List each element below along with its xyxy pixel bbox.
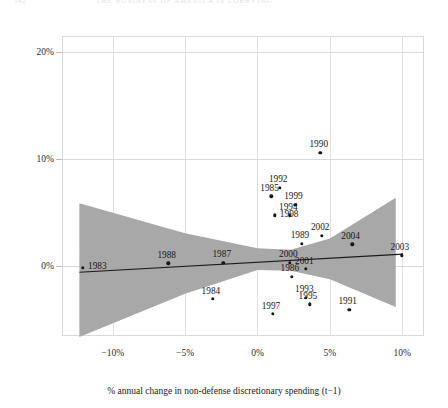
data-point-label: 1984 [202, 287, 221, 296]
running-head-title: THE BUSINESS OF AMERICA IS LOBBYING [96, 0, 273, 5]
data-point-label: 1985 [260, 184, 279, 193]
scatter-plot: 1983198419851986198719881989199019911992… [62, 36, 424, 336]
data-point-label: 2003 [391, 243, 410, 252]
fit-line-layer [62, 36, 424, 336]
y-tick-label: 10% [8, 154, 54, 164]
regression-line [79, 254, 403, 272]
x-tick-label: −10% [101, 348, 124, 358]
data-point-label: 1987 [212, 250, 231, 259]
data-point-label: 1999 [284, 192, 303, 201]
data-point-label: 1992 [269, 175, 288, 184]
y-tick-mark [56, 159, 62, 160]
x-tick-label: 5% [324, 348, 337, 358]
x-tick-label: −5% [176, 348, 194, 358]
y-tick-label: 0% [8, 261, 54, 271]
x-tick-label: 10% [394, 348, 411, 358]
figure-container: 142 THE BUSINESS OF AMERICA IS LOBBYING … [0, 0, 448, 408]
y-tick-mark [56, 52, 62, 53]
y-tick-mark [56, 266, 62, 267]
x-axis-title: % annual change in non-defense discretio… [0, 386, 448, 396]
data-point-label: 2001 [295, 257, 314, 266]
data-point-label: 2002 [311, 223, 330, 232]
y-tick-label: 20% [8, 47, 54, 57]
data-point-label: 2004 [341, 232, 360, 241]
data-point-label: 1988 [157, 251, 176, 260]
page-folio: 142 [14, 0, 26, 5]
data-point-label: 1991 [338, 297, 357, 306]
x-tick-label: 0% [251, 348, 264, 358]
data-point-label: 1989 [291, 231, 310, 240]
data-point-label: 1998 [280, 210, 299, 219]
data-point-label: 1997 [262, 302, 281, 311]
running-head: 142 THE BUSINESS OF AMERICA IS LOBBYING [0, 0, 448, 10]
data-point-label: 1990 [309, 140, 328, 149]
data-point-label: 1995 [299, 292, 318, 301]
data-point-label: 1983 [88, 262, 107, 271]
